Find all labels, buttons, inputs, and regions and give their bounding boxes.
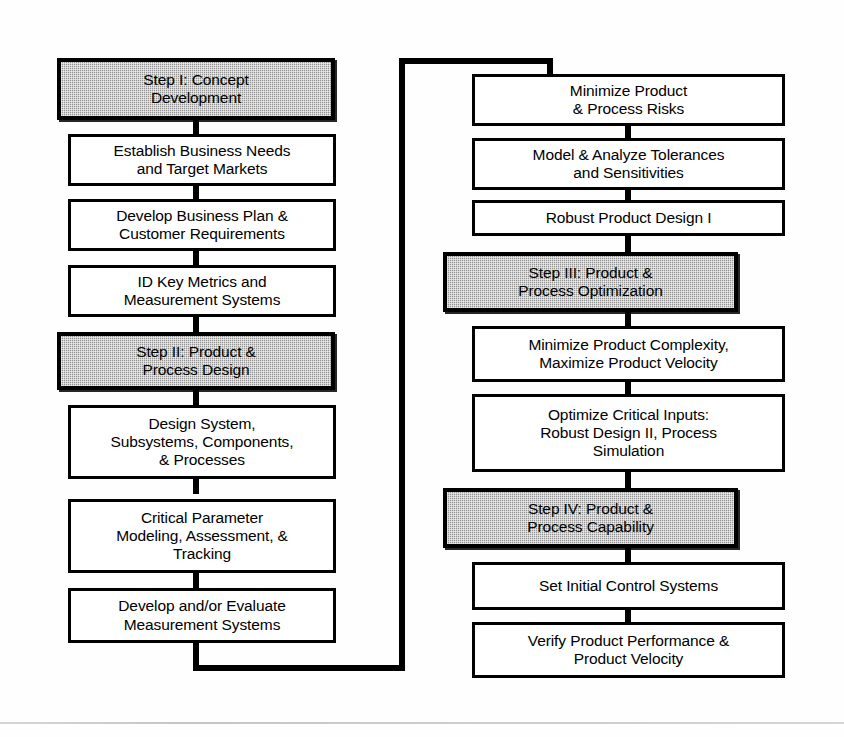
node-right-2[interactable]: Model & Analyze Tolerances and Sensitivi… — [472, 138, 785, 190]
node-label: Minimize Product & Process Risks — [570, 82, 687, 119]
connector-left-7-8 — [193, 572, 199, 588]
node-left-6[interactable]: Design System, Subsystems, Components, &… — [68, 405, 336, 479]
node-label: Set Initial Control Systems — [539, 577, 718, 595]
flowchart-canvas: Step I: Concept Development Establish Bu… — [0, 0, 844, 737]
connector-return-top — [399, 58, 553, 64]
node-left-4[interactable]: ID Key Metrics and Measurement Systems — [68, 265, 336, 317]
node-label: Step IV: Product & Process Capability — [527, 500, 654, 537]
connector-left-5-6 — [193, 388, 199, 406]
node-right-8[interactable]: Set Initial Control Systems — [472, 562, 785, 610]
node-right-5[interactable]: Minimize Product Complexity, Maximize Pr… — [472, 326, 785, 382]
connector-right-3-4 — [625, 234, 631, 254]
node-step-3[interactable]: Step III: Product & Process Optimization — [443, 252, 738, 312]
node-label: Step III: Product & Process Optimization — [518, 264, 662, 301]
node-label: Step II: Product & Process Design — [136, 343, 256, 380]
node-left-8[interactable]: Develop and/or Evaluate Measurement Syst… — [68, 588, 336, 643]
node-label: Establish Business Needs and Target Mark… — [114, 142, 291, 179]
node-label: Model & Analyze Tolerances and Sensitivi… — [533, 146, 725, 183]
node-label: Optimize Critical Inputs: Robust Design … — [540, 406, 717, 461]
node-label: Design System, Subsystems, Components, &… — [111, 415, 294, 470]
node-label: Critical Parameter Modeling, Assessment,… — [116, 509, 288, 564]
connector-right-6-7 — [625, 470, 631, 490]
node-step-1[interactable]: Step I: Concept Development — [57, 58, 335, 120]
node-left-3[interactable]: Develop Business Plan & Customer Require… — [68, 199, 336, 251]
connector-return-bottom — [193, 665, 405, 671]
node-label: ID Key Metrics and Measurement Systems — [124, 273, 281, 310]
node-right-1[interactable]: Minimize Product & Process Risks — [472, 74, 785, 126]
node-label: Develop and/or Evaluate Measurement Syst… — [118, 597, 285, 634]
node-label: Develop Business Plan & Customer Require… — [116, 207, 288, 244]
node-label: Verify Product Performance & Product Vel… — [528, 632, 729, 669]
node-step-4[interactable]: Step IV: Product & Process Capability — [443, 488, 738, 548]
connector-return-riser — [399, 58, 405, 671]
node-label: Robust Product Design I — [546, 209, 712, 227]
connector-left-2-3 — [193, 184, 199, 200]
node-label: Minimize Product Complexity, Maximize Pr… — [528, 336, 728, 373]
node-left-7[interactable]: Critical Parameter Modeling, Assessment,… — [68, 499, 336, 573]
node-left-2[interactable]: Establish Business Needs and Target Mark… — [68, 134, 336, 186]
scan-artifact-line — [0, 722, 844, 724]
connector-left-6-7 — [193, 478, 199, 494]
node-right-9[interactable]: Verify Product Performance & Product Vel… — [472, 622, 785, 678]
node-right-6[interactable]: Optimize Critical Inputs: Robust Design … — [472, 394, 785, 472]
node-right-3[interactable]: Robust Product Design I — [472, 200, 785, 236]
connector-left-3-4 — [193, 250, 199, 266]
node-step-2[interactable]: Step II: Product & Process Design — [57, 332, 335, 390]
node-label: Step I: Concept Development — [143, 71, 248, 108]
